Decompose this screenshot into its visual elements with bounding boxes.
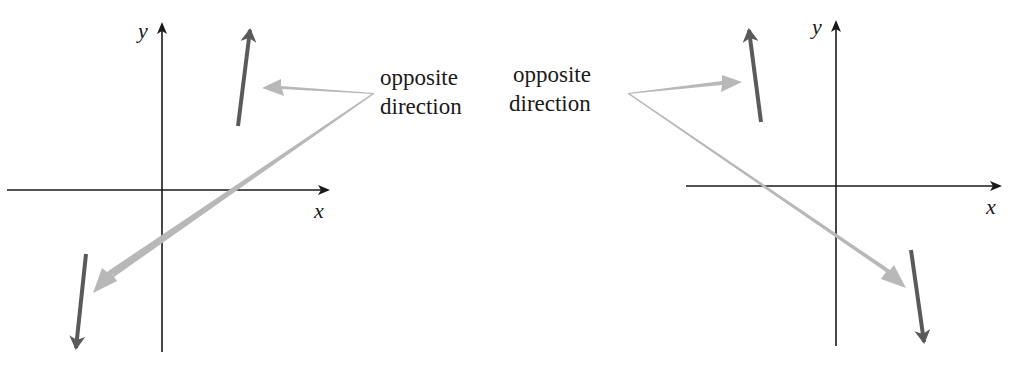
right-coordinate-plane: x y opposite direction [509,14,1000,346]
right-up-vector [749,30,761,122]
right-x-label: x [985,194,996,219]
left-callout-line1: opposite [380,65,458,90]
right-callout-line1: opposite [513,62,591,87]
right-down-vector [911,250,924,342]
left-x-label: x [313,198,324,223]
left-callout-arrow-lower-body [110,94,374,277]
right-callout-arrow-lower [628,93,906,288]
left-up-vector [238,30,250,126]
opposite-direction-diagram: x y opposite direction x y opposite dire… [0,0,1012,368]
right-callout-arrow-upper [628,75,742,94]
left-callout-line2: direction [380,94,462,119]
left-callout-arrow-upper [262,79,374,96]
right-callout-line2: direction [509,91,591,116]
left-down-vector [76,254,86,348]
left-y-label: y [136,18,148,43]
right-y-label: y [810,14,822,39]
left-coordinate-plane: x y opposite direction [7,18,462,352]
